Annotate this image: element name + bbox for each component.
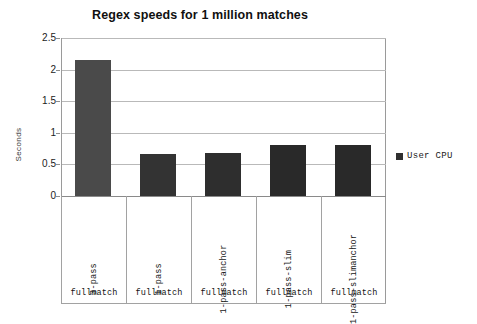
y-tick-label: 1.5: [30, 96, 56, 106]
category-label-rotated-wrap: 1-pass-anchor: [192, 196, 256, 284]
bar: [335, 145, 371, 196]
y-tick-mark: [56, 133, 60, 134]
category-label-bottom: fullmatch: [62, 288, 126, 298]
legend-swatch-user-cpu: [396, 153, 403, 160]
y-axis-tick-labels: 00.511.522.5: [28, 0, 56, 321]
bar: [75, 60, 111, 196]
legend: User CPU: [396, 151, 453, 161]
category-label-top: 1-pass-slimanchor: [349, 234, 359, 324]
y-tick-mark: [56, 164, 60, 165]
y-tick-label: 0.5: [30, 159, 56, 169]
category-label-rotated-wrap: 1-pass-slimanchor: [322, 196, 386, 284]
category-label-rotated-wrap: 1-pass-slim: [257, 196, 321, 284]
bar: [140, 154, 176, 196]
y-tick-label: 2: [30, 65, 56, 75]
category-axis-bottom-border: [61, 303, 386, 304]
y-tick-mark: [56, 70, 60, 71]
y-tick-label: 1: [30, 128, 56, 138]
category-label-bottom: fullmatch: [127, 288, 191, 298]
category-label-top: 1-pass-slim: [284, 250, 294, 308]
category-cell: 1-pass-slimfullmatch: [256, 196, 321, 303]
category-label-bottom: fullmatch: [257, 288, 321, 298]
chart-title: Regex speeds for 1 million matches: [0, 8, 400, 22]
category-cell: 1-passfullmatch: [126, 196, 191, 303]
y-tick-mark: [56, 101, 60, 102]
bars-layer: [61, 38, 385, 196]
y-axis-title: Seconds: [14, 115, 23, 175]
category-cell: 3-passfullmatch: [61, 196, 126, 303]
category-axis-table: 3-passfullmatch1-passfullmatch1-pass-anc…: [61, 196, 386, 303]
category-label-rotated-wrap: 1-pass: [127, 196, 191, 284]
bar: [205, 153, 241, 196]
legend-label-user-cpu: User CPU: [407, 151, 453, 161]
category-label-bottom: fullmatch: [192, 288, 256, 298]
y-tick-mark: [56, 196, 60, 197]
y-tick-label: 2.5: [30, 33, 56, 43]
category-label-rotated-wrap: 3-pass: [62, 196, 126, 284]
bar: [270, 145, 306, 196]
category-cell: 1-pass-anchorfullmatch: [191, 196, 256, 303]
category-cell: 1-pass-slimanchorfullmatch: [321, 196, 386, 303]
category-label-bottom: fullmatch: [322, 288, 386, 298]
y-tick-mark: [56, 38, 60, 39]
y-tick-label: 0: [30, 191, 56, 201]
